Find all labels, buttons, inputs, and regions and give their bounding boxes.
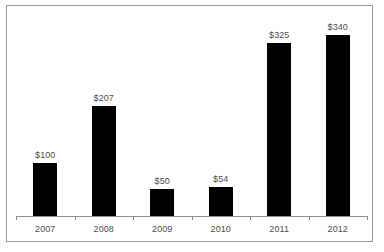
x-axis-label-2010: 2010 bbox=[192, 224, 251, 235]
bar-2008[interactable] bbox=[92, 106, 116, 216]
bar-value-label-2012: $340 bbox=[328, 22, 348, 32]
x-axis-tick-end bbox=[367, 216, 368, 220]
x-axis-label-2009: 2009 bbox=[133, 224, 192, 235]
x-axis-label-2008: 2008 bbox=[75, 224, 134, 235]
bar-2010[interactable] bbox=[209, 187, 233, 216]
bar-group-2007: $100 bbox=[16, 14, 75, 216]
bar-2012[interactable] bbox=[326, 35, 350, 216]
bar-group-2011: $325 bbox=[250, 14, 309, 216]
x-axis-tick-5 bbox=[309, 216, 310, 220]
x-axis-tick-3 bbox=[192, 216, 193, 220]
bar-value-label-2010: $54 bbox=[213, 174, 228, 184]
x-axis-label-2011: 2011 bbox=[250, 224, 309, 235]
x-axis-tick-4 bbox=[250, 216, 251, 220]
bar-value-label-2011: $325 bbox=[269, 30, 289, 40]
bar-2011[interactable] bbox=[267, 43, 291, 216]
bar-group-2012: $340 bbox=[309, 14, 368, 216]
bar-value-label-2007: $100 bbox=[35, 150, 55, 160]
x-axis-tick-1 bbox=[75, 216, 76, 220]
bar-2009[interactable] bbox=[150, 189, 174, 216]
bar-value-label-2008: $207 bbox=[94, 93, 114, 103]
x-axis-tick-0 bbox=[16, 216, 17, 220]
bar-group-2008: $207 bbox=[75, 14, 134, 216]
bar-group-2010: $54 bbox=[192, 14, 251, 216]
x-axis-label-2012: 2012 bbox=[309, 224, 368, 235]
bar-chart-figure: $100$207$50$54$325$340 20072008200920102… bbox=[0, 0, 384, 252]
bar-group-2009: $50 bbox=[133, 14, 192, 216]
bar-2007[interactable] bbox=[33, 163, 57, 216]
plot-area: $100$207$50$54$325$340 bbox=[16, 14, 367, 216]
x-axis-label-2007: 2007 bbox=[16, 224, 75, 235]
x-axis-tick-2 bbox=[133, 216, 134, 220]
bar-value-label-2009: $50 bbox=[155, 176, 170, 186]
